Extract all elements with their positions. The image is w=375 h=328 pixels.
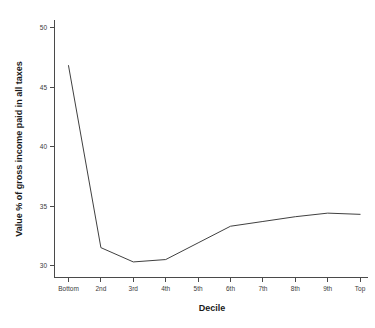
x-tick-label: Bottom bbox=[58, 285, 79, 292]
y-tick-label: 45 bbox=[40, 84, 48, 91]
x-tick-label: 7th bbox=[258, 285, 267, 292]
y-tick-label: 40 bbox=[40, 143, 48, 150]
y-tick-group: 30 35 40 45 50 bbox=[40, 24, 55, 269]
y-tick-label: 30 bbox=[40, 262, 48, 269]
chart-container: 30 35 40 45 50 Bottom 2nd 3rd 4th 5th 6t… bbox=[0, 0, 375, 328]
x-tick-label: 5th bbox=[194, 285, 203, 292]
x-tick-label: 9th bbox=[323, 285, 332, 292]
x-tick-label: 8th bbox=[291, 285, 300, 292]
data-line-series bbox=[69, 66, 361, 262]
x-tick-label: 2nd bbox=[95, 285, 106, 292]
x-tick-label: 6th bbox=[226, 285, 235, 292]
x-tick-group: Bottom 2nd 3rd 4th 5th 6th 7th 8th 9th T… bbox=[58, 278, 366, 294]
line-chart: 30 35 40 45 50 Bottom 2nd 3rd 4th 5th 6t… bbox=[0, 0, 375, 328]
y-tick-label: 50 bbox=[40, 24, 48, 31]
y-axis-title: Value % of gross income paid in all taxe… bbox=[14, 61, 24, 237]
y-tick-label: 35 bbox=[40, 203, 48, 210]
x-tick-label: 3rd bbox=[129, 285, 139, 292]
x-axis-title: Decile bbox=[199, 303, 226, 313]
x-tick-label: 4th bbox=[161, 285, 170, 292]
x-tick-label: Top bbox=[355, 285, 366, 293]
